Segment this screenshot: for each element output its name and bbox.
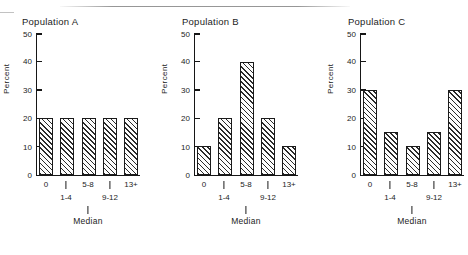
bar-population-c-4 [448, 90, 462, 175]
y-tick-label-50-a: 50 [0, 30, 36, 39]
x-tick-label-b-0: 0 [202, 180, 206, 189]
median-label-a: Median [73, 216, 103, 226]
x-axis-labels-population-a: 0 1-4 5-8 9-12 13+ Median [36, 180, 140, 220]
y-tick-label-50-c: 50 [316, 30, 360, 39]
median-pointer-b [245, 206, 246, 214]
x-tick-label-c-1: 1-4 [384, 193, 396, 202]
y-tick-label-30-a: 30 [0, 85, 36, 94]
x-tick-label-b-1: 1-4 [218, 193, 230, 202]
bar-population-a-2 [82, 118, 96, 174]
x-tick-mark-c-3 [433, 181, 434, 189]
y-tick-label-30-c: 30 [316, 85, 360, 94]
median-pointer-a [87, 206, 88, 214]
bar-population-c-0 [363, 90, 377, 175]
chart-panel-population-b: Population B Percent 0 10 20 30 40 50 [152, 0, 304, 255]
x-tick-label-a-3: 9-12 [102, 193, 118, 202]
bar-population-a-3 [103, 118, 117, 174]
x-tick-mark-a-3 [109, 181, 110, 189]
x-tick-label-a-0: 0 [44, 180, 48, 189]
x-tick-label-b-3: 9-12 [260, 193, 276, 202]
bar-population-a-4 [124, 118, 138, 174]
bar-population-c-3 [427, 132, 441, 174]
x-tick-mark-a-1 [65, 181, 66, 189]
x-tick-label-a-2: 5-8 [82, 180, 94, 189]
bar-population-a-0 [39, 118, 53, 174]
y-tick-label-0-c: 0 [316, 171, 360, 180]
bar-population-b-1 [218, 118, 232, 174]
bar-group-population-c [361, 34, 464, 175]
x-tick-label-b-4: 13+ [282, 180, 296, 189]
y-tick-label-40-c: 40 [316, 57, 360, 66]
y-tick-label-10-a: 10 [0, 142, 36, 151]
bar-population-b-2 [240, 62, 254, 175]
x-axis-line-population-b [194, 175, 298, 176]
y-tick-label-50-b: 50 [150, 30, 194, 39]
bar-population-c-2 [406, 146, 420, 174]
plot-area-population-a: 0 10 20 30 40 50 0 1-4 5-8 9-12 13+ [36, 33, 140, 176]
median-pointer-c [411, 206, 412, 214]
y-tick-label-30-b: 30 [150, 85, 194, 94]
bar-population-b-4 [282, 146, 296, 174]
bar-group-population-a [37, 34, 140, 175]
plot-area-population-b: 0 10 20 30 40 50 0 1-4 5-8 9-12 13+ [194, 33, 298, 176]
y-tick-label-0-b: 0 [150, 171, 194, 180]
bar-population-b-3 [261, 118, 275, 174]
x-axis-labels-population-b: 0 1-4 5-8 9-12 13+ Median [194, 180, 298, 220]
y-tick-label-40-b: 40 [150, 57, 194, 66]
x-axis-line-population-a [36, 175, 140, 176]
y-tick-label-0-a: 0 [0, 171, 36, 180]
x-tick-mark-b-3 [267, 181, 268, 189]
x-tick-label-c-0: 0 [368, 180, 372, 189]
plot-area-population-c: 0 10 20 30 40 50 0 1-4 5-8 9-12 13+ [360, 33, 464, 176]
bar-population-a-1 [60, 118, 74, 174]
y-tick-label-10-c: 10 [316, 142, 360, 151]
bar-group-population-b [195, 34, 298, 175]
x-tick-label-a-1: 1-4 [60, 193, 72, 202]
y-tick-label-10-b: 10 [150, 142, 194, 151]
median-label-b: Median [231, 216, 261, 226]
x-axis-labels-population-c: 0 1-4 5-8 9-12 13+ Median [360, 180, 464, 220]
y-tick-label-20-a: 20 [0, 114, 36, 123]
y-tick-label-20-c: 20 [316, 114, 360, 123]
x-tick-label-a-4: 13+ [124, 180, 138, 189]
x-tick-label-b-2: 5-8 [240, 180, 252, 189]
median-label-c: Median [397, 216, 427, 226]
chart-panel-population-c: Population C Percent 0 10 20 30 40 50 [304, 0, 456, 255]
x-tick-mark-b-1 [223, 181, 224, 189]
chart-panel-population-a: Population A Percent 0 10 20 30 40 50 [0, 0, 152, 255]
x-tick-label-c-3: 9-12 [426, 193, 442, 202]
bar-population-c-1 [384, 132, 398, 174]
x-tick-mark-c-1 [389, 181, 390, 189]
x-axis-line-population-c [360, 175, 464, 176]
chart-title-population-c: Population C [304, 16, 468, 27]
x-tick-label-c-4: 13+ [448, 180, 462, 189]
bar-population-b-0 [197, 146, 211, 174]
y-tick-label-40-a: 40 [0, 57, 36, 66]
y-tick-label-20-b: 20 [150, 114, 194, 123]
chart-title-population-a: Population A [0, 16, 174, 27]
x-tick-label-c-2: 5-8 [406, 180, 418, 189]
